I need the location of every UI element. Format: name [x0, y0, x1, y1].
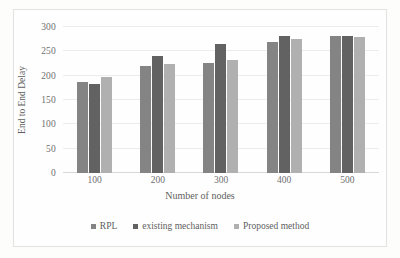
bar-group-200 [126, 27, 189, 173]
legend-swatch-icon [133, 224, 138, 229]
bar-400-rpl[interactable] [267, 42, 278, 173]
legend-swatch-icon [234, 224, 239, 229]
legend-item-existing-mechanism[interactable]: existing mechanism [133, 221, 218, 231]
bars-layer [63, 27, 379, 173]
legend-label: Proposed method [243, 221, 309, 231]
y-tick-label-300: 300 [41, 22, 56, 32]
bar-200-existing-mechanism[interactable] [152, 56, 163, 173]
bar-group-300 [189, 27, 252, 173]
legend-label: existing mechanism [142, 221, 218, 231]
bar-200-proposed-method[interactable] [164, 64, 175, 173]
bar-500-proposed-method[interactable] [354, 37, 365, 173]
plot-area [63, 27, 379, 173]
legend-swatch-icon [91, 224, 96, 229]
bar-group-500 [316, 27, 379, 173]
legend-item-proposed-method[interactable]: Proposed method [234, 221, 309, 231]
chart-figure: End to End Delay 050100150200250300 1002… [0, 0, 400, 258]
x-tick-label-100: 100 [87, 175, 101, 185]
chart-legend: RPLexisting mechanismProposed method [0, 221, 400, 231]
bar-100-existing-mechanism[interactable] [89, 84, 100, 173]
bar-100-proposed-method[interactable] [101, 77, 112, 173]
legend-label: RPL [100, 221, 117, 231]
bar-300-proposed-method[interactable] [227, 60, 238, 173]
bar-group-100 [63, 27, 126, 173]
bar-group-400 [253, 27, 316, 173]
bar-200-rpl[interactable] [140, 66, 151, 173]
y-axis-tick-labels: 050100150200250300 [0, 0, 63, 258]
x-axis-title: Number of nodes [0, 190, 400, 201]
x-tick-label-200: 200 [151, 175, 165, 185]
bar-100-rpl[interactable] [77, 82, 88, 173]
x-tick-label-300: 300 [214, 175, 228, 185]
bar-300-rpl[interactable] [203, 63, 214, 173]
legend-item-rpl[interactable]: RPL [91, 221, 117, 231]
bar-400-existing-mechanism[interactable] [279, 36, 290, 173]
x-tick-label-400: 400 [277, 175, 291, 185]
y-tick-label-200: 200 [41, 71, 56, 81]
bar-300-existing-mechanism[interactable] [215, 44, 226, 173]
x-tick-label-500: 500 [340, 175, 354, 185]
y-tick-label-100: 100 [41, 119, 56, 129]
x-axis-tick-labels: 100200300400500 [63, 175, 379, 191]
y-tick-label-150: 150 [41, 95, 56, 105]
y-tick-label-0: 0 [51, 168, 56, 178]
bar-500-rpl[interactable] [330, 36, 341, 173]
bar-500-existing-mechanism[interactable] [342, 36, 353, 173]
bar-400-proposed-method[interactable] [291, 39, 302, 173]
y-tick-label-250: 250 [41, 46, 56, 56]
y-tick-label-50: 50 [46, 144, 56, 154]
